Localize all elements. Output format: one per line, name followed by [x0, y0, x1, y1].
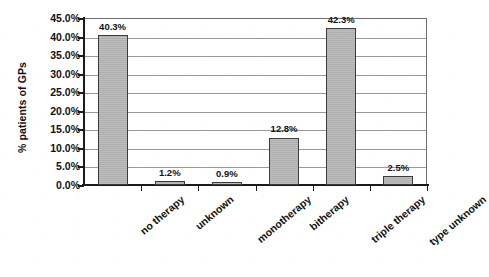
y-axis-tick-mark — [78, 74, 84, 76]
y-axis-tick-mark — [78, 18, 84, 20]
x-axis-category-label: type unknown — [427, 193, 489, 248]
x-axis-category-label: unknown — [193, 193, 236, 232]
x-axis-tick-mark — [198, 185, 199, 191]
y-axis-tick-mark — [78, 166, 84, 168]
x-axis-tick-mark — [256, 185, 257, 191]
y-axis-tick-mark — [78, 92, 84, 94]
x-axis-tick-mark — [427, 185, 428, 191]
x-axis-category-label: triple therapy — [369, 193, 428, 245]
y-axis-tick-mark — [78, 111, 84, 113]
x-axis-tick-mark — [370, 185, 371, 191]
y-axis-tick-mark — [78, 129, 84, 131]
x-axis-tick-mark — [141, 185, 142, 191]
x-axis-category-label: no therapy — [137, 193, 186, 237]
x-axis-category-label: monotherapy — [254, 193, 313, 245]
y-axis-tick-mark — [78, 55, 84, 57]
y-axis-tick-mark — [78, 185, 84, 187]
y-axis-tick-mark — [78, 37, 84, 39]
x-axis-category-label: bitherapy — [307, 193, 351, 233]
x-axis-tick-mark — [313, 185, 314, 191]
y-axis-tick-mark — [78, 148, 84, 150]
